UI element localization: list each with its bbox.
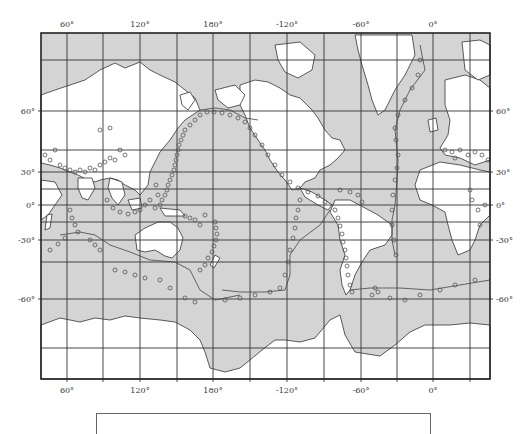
left-label-0: 0° xyxy=(26,201,35,210)
left-label-30: 30° xyxy=(21,168,35,177)
left-axis-labels: 60° 30° 0° -30° -60° xyxy=(18,107,35,304)
bottom-axis-labels: 60° 120° 180° -120° -60° 0° xyxy=(60,386,438,395)
right-label-0: 0° xyxy=(496,201,505,210)
right-label-60: 60° xyxy=(496,107,510,116)
top-label-180: 180° xyxy=(203,20,222,29)
bottom-label-0: 0° xyxy=(428,386,437,395)
top-label-120: 120° xyxy=(130,20,149,29)
right-label-30: 30° xyxy=(496,168,510,177)
top-label-minus60: -60° xyxy=(353,20,370,29)
left-label-60: 60° xyxy=(21,107,35,116)
bottom-label-120: 120° xyxy=(130,386,149,395)
legend-box xyxy=(96,413,431,434)
bottom-label-180: 180° xyxy=(203,386,222,395)
right-axis-labels: 60° 30° 0° -30° -60° xyxy=(496,107,513,304)
bottom-label-minus120: -120° xyxy=(276,386,298,395)
bottom-label-minus60: -60° xyxy=(353,386,370,395)
right-label-minus30: -30° xyxy=(496,236,513,245)
top-label-60: 60° xyxy=(60,20,74,29)
left-label-minus30: -30° xyxy=(18,236,35,245)
top-label-0: 0° xyxy=(428,20,437,29)
left-label-minus60: -60° xyxy=(18,295,35,304)
bottom-label-60: 60° xyxy=(60,386,74,395)
right-label-minus60: -60° xyxy=(496,295,513,304)
top-axis-labels: 60° 120° 180° -120° -60° 0° xyxy=(60,20,438,29)
top-label-minus120: -120° xyxy=(276,20,298,29)
